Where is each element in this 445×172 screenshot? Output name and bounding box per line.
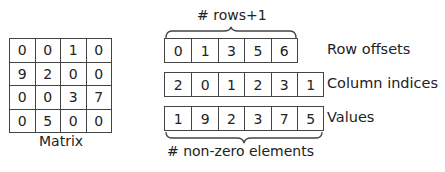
matrix-cell: 0: [35, 86, 61, 110]
non-zero-elements-annotation: # non-zero elements: [167, 143, 314, 159]
array-cell: 0: [165, 39, 191, 62]
column-indices-array: 2 0 1 2 3 1: [164, 72, 324, 97]
array-cell: 1: [218, 73, 244, 96]
matrix-row: 9 2 0 0: [10, 62, 112, 86]
matrix-cell: 0: [10, 39, 36, 63]
array-cell: 7: [271, 107, 297, 130]
array-cell: 2: [218, 107, 244, 130]
matrix-cell: 0: [86, 109, 112, 133]
dense-matrix: 0 0 1 0 9 2 0 0 0 0 3 7 0 5 0 0: [9, 38, 112, 133]
matrix-cell: 7: [86, 86, 112, 110]
row-offsets-array: 0 1 3 5 6: [164, 38, 298, 63]
matrix-cell: 1: [61, 39, 87, 63]
array-cell: 1: [191, 39, 217, 62]
matrix-cell: 0: [10, 86, 36, 110]
matrix-row: 0 0 1 0: [10, 39, 112, 63]
matrix-cell: 0: [61, 109, 87, 133]
array-cell: 3: [218, 39, 244, 62]
values-array: 1 9 2 3 7 5: [164, 106, 324, 131]
row-offsets-label: Row offsets: [327, 41, 410, 57]
array-cell: 0: [191, 73, 217, 96]
matrix-cell: 0: [86, 62, 112, 86]
matrix-cell: 0: [10, 109, 36, 133]
matrix-cell: 9: [10, 62, 36, 86]
matrix-cell: 3: [61, 86, 87, 110]
array-cell: 3: [271, 73, 297, 96]
array-cell: 3: [244, 107, 270, 130]
array-cell: 5: [244, 39, 270, 62]
matrix-cell: 0: [61, 62, 87, 86]
column-indices-label: Column indices: [327, 75, 438, 91]
array-cell: 1: [297, 73, 323, 96]
array-cell: 2: [244, 73, 270, 96]
matrix-cell: 0: [35, 39, 61, 63]
rows-plus-one-annotation: # rows+1: [197, 7, 267, 23]
array-cell: 9: [191, 107, 217, 130]
array-cell: 1: [165, 107, 191, 130]
array-cell: 5: [297, 107, 323, 130]
matrix-cell: 0: [86, 39, 112, 63]
matrix-row: 0 5 0 0: [10, 109, 112, 133]
matrix-row: 0 0 3 7: [10, 86, 112, 110]
values-label: Values: [327, 109, 374, 125]
matrix-caption: Matrix: [39, 133, 83, 149]
matrix-cell: 2: [35, 62, 61, 86]
array-cell: 6: [271, 39, 297, 62]
matrix-cell: 5: [35, 109, 61, 133]
array-cell: 2: [165, 73, 191, 96]
